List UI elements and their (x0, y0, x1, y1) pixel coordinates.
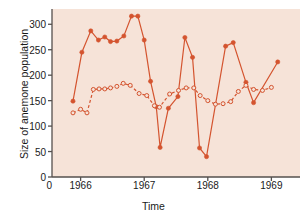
data-point-filled-circle (231, 41, 235, 45)
data-point-filled-circle (96, 38, 100, 42)
data-point-open-circle (229, 100, 233, 104)
data-point-open-circle (91, 87, 95, 91)
data-point-open-circle (97, 87, 101, 91)
data-point-open-circle (198, 94, 202, 98)
data-point-open-circle (79, 107, 83, 111)
data-point-open-circle (115, 84, 119, 88)
data-point-open-circle (206, 99, 210, 103)
data-point-filled-circle (115, 39, 119, 43)
data-point-filled-circle (136, 14, 140, 18)
data-point-filled-circle (142, 38, 146, 42)
data-point-open-circle (244, 83, 248, 87)
data-point-filled-circle (190, 55, 194, 59)
data-point-open-circle (221, 102, 225, 106)
data-point-open-circle (157, 105, 161, 109)
data-point-open-circle (177, 88, 181, 92)
data-point-open-circle (128, 83, 132, 87)
data-point-filled-circle (224, 44, 228, 48)
data-point-filled-circle (103, 35, 107, 39)
data-point-filled-circle (183, 35, 187, 39)
data-point-filled-circle (166, 106, 170, 110)
data-point-filled-circle (148, 79, 152, 83)
data-point-filled-circle (251, 101, 255, 105)
data-point-open-circle (121, 81, 125, 85)
data-point-filled-circle (80, 50, 84, 54)
data-point-filled-circle (122, 34, 126, 38)
data-point-open-circle (145, 94, 149, 98)
data-point-filled-circle (129, 14, 133, 18)
data-point-open-circle (260, 88, 264, 92)
data-point-open-circle (103, 87, 107, 91)
data-point-open-circle (85, 111, 89, 115)
data-point-open-circle (192, 86, 196, 90)
plot-area (0, 0, 307, 218)
data-point-open-circle (213, 102, 217, 106)
data-point-open-circle (71, 111, 75, 115)
data-point-filled-circle (204, 155, 208, 159)
data-point-filled-circle (158, 145, 162, 149)
data-point-open-circle (252, 87, 256, 91)
data-point-filled-circle (197, 146, 201, 150)
data-point-open-circle (269, 85, 273, 89)
data-point-open-circle (184, 86, 188, 90)
data-point-open-circle (109, 86, 113, 90)
data-point-open-circle (152, 104, 156, 108)
data-point-filled-circle (276, 60, 280, 64)
data-point-filled-circle (89, 29, 93, 33)
data-point-open-circle (168, 92, 172, 96)
data-point-filled-circle (71, 99, 75, 103)
chart-figure: Size of anemone population Time 05010015… (0, 0, 307, 218)
data-point-open-circle (137, 92, 141, 96)
data-point-filled-circle (176, 94, 180, 98)
data-point-filled-circle (108, 39, 112, 43)
data-point-open-circle (236, 89, 240, 93)
